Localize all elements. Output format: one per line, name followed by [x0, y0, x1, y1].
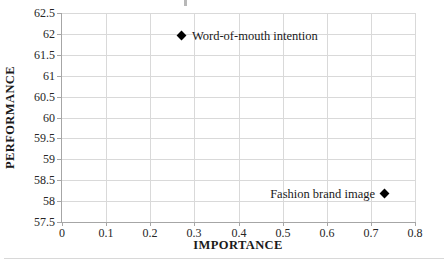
ipa-scatter-chart: PERFORMANCE IMPORTANCE 57.55858.55959.56…	[0, 0, 448, 263]
x-tick-label: 0.3	[173, 226, 215, 240]
y-tick-label: 59.5	[13, 131, 55, 145]
x-tick-label: 0	[41, 226, 83, 240]
y-axis-tick	[57, 34, 61, 35]
y-tick-label: 60.5	[13, 90, 55, 104]
y-axis-tick	[57, 55, 61, 56]
x-gridline	[106, 13, 107, 222]
y-tick-label: 62	[13, 27, 55, 41]
y-axis-line	[61, 13, 62, 223]
x-gridline	[150, 13, 151, 222]
y-axis-tick	[57, 180, 61, 181]
y-axis-tick	[57, 13, 61, 14]
x-tick-label: 0.4	[218, 226, 260, 240]
y-tick-label: 61	[13, 69, 55, 83]
y-tick-label: 59	[13, 152, 55, 166]
x-tick-label: 0.5	[262, 226, 304, 240]
y-tick-label: 60	[13, 111, 55, 125]
y-tick-label: 58.5	[13, 173, 55, 187]
x-gridline	[415, 13, 416, 222]
bottom-border-line	[4, 258, 444, 259]
y-axis-tick	[57, 118, 61, 119]
y-axis-tick	[57, 222, 61, 223]
x-tick-label: 0.8	[394, 226, 436, 240]
y-tick-label: 61.5	[13, 48, 55, 62]
y-tick-label: 58	[13, 194, 55, 208]
x-tick-label: 0.1	[85, 226, 127, 240]
data-point-label: Word-of-mouth intention	[192, 29, 318, 43]
x-axis-title: IMPORTANCE	[178, 238, 298, 253]
top-edge-artifact	[184, 0, 187, 6]
y-axis-tick	[57, 97, 61, 98]
data-point-label: Fashion brand image	[270, 187, 375, 201]
y-axis-tick	[57, 201, 61, 202]
y-axis-tick	[57, 76, 61, 77]
y-axis-tick	[57, 159, 61, 160]
x-gridline	[194, 13, 195, 222]
x-tick-label: 0.7	[350, 226, 392, 240]
x-gridline	[239, 13, 240, 222]
y-tick-label: 62.5	[13, 6, 55, 20]
x-tick-label: 0.6	[306, 226, 348, 240]
x-tick-label: 0.2	[129, 226, 171, 240]
y-axis-tick	[57, 138, 61, 139]
